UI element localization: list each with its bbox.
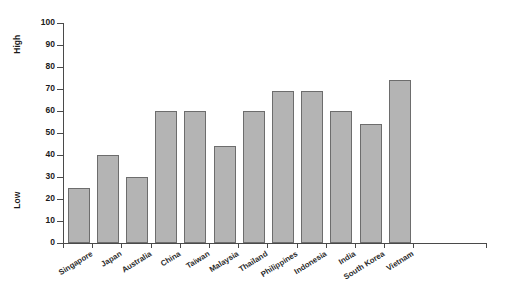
bar — [126, 177, 148, 243]
bar — [389, 80, 411, 243]
x-axis-label: China — [159, 250, 182, 268]
y-axis-tick — [57, 133, 63, 134]
x-axis-tick — [180, 243, 181, 248]
y-axis-tick-label: 10 — [33, 216, 55, 225]
y-axis-tick-label: 20 — [33, 194, 55, 203]
y-axis-tick-label: 70 — [33, 84, 55, 93]
x-axis-tick — [63, 243, 64, 248]
y-axis-tick — [57, 23, 63, 24]
bar — [272, 91, 294, 243]
x-axis-label: Taiwan — [185, 250, 211, 270]
x-axis-line — [63, 243, 487, 244]
bar — [68, 188, 90, 243]
y-axis-annotation-high: High — [13, 31, 22, 57]
x-axis-tick — [267, 243, 268, 248]
x-axis-label: India — [338, 250, 358, 266]
bar — [330, 111, 352, 243]
y-axis-tick-label: 0 — [33, 238, 55, 247]
x-axis-label: Vietnam — [386, 250, 416, 273]
y-axis-tick — [57, 155, 63, 156]
y-axis-tick-label: 60 — [33, 106, 55, 115]
x-axis-tick — [151, 243, 152, 248]
x-axis-tick — [238, 243, 239, 248]
x-axis-tick — [326, 243, 327, 248]
chart-page: High Low 0102030405060708090100 Singapor… — [0, 0, 518, 299]
x-axis-label: Singapore — [58, 250, 94, 277]
x-axis-tick — [297, 243, 298, 248]
y-axis-tick-label: 30 — [33, 172, 55, 181]
x-axis-label: Malaysia — [209, 250, 241, 274]
y-axis-tick — [57, 67, 63, 68]
x-axis-tick — [413, 243, 414, 248]
y-axis-tick — [57, 111, 63, 112]
y-axis-annotation-low: Low — [13, 187, 22, 213]
x-axis-tick — [92, 243, 93, 248]
x-axis-tick — [121, 243, 122, 248]
y-axis-tick-label: 50 — [33, 128, 55, 137]
y-axis-tick — [57, 221, 63, 222]
bar — [360, 124, 382, 243]
bar — [301, 91, 323, 243]
y-axis-tick-label: 80 — [33, 62, 55, 71]
x-axis-tick — [384, 243, 385, 248]
x-axis-tick — [209, 243, 210, 248]
y-axis-tick — [57, 199, 63, 200]
y-axis-tick-label: 90 — [33, 40, 55, 49]
bar — [97, 155, 119, 243]
y-axis-tick-label: 100 — [33, 18, 55, 27]
y-axis-tick — [57, 89, 63, 90]
y-axis-line — [63, 23, 64, 244]
x-axis-label: Australia — [120, 250, 152, 274]
bar — [243, 111, 265, 243]
y-axis-tick — [57, 45, 63, 46]
bar-chart: High Low 0102030405060708090100 Singapor… — [0, 0, 518, 299]
bar — [184, 111, 206, 243]
bar — [214, 146, 236, 243]
bar — [155, 111, 177, 243]
x-axis-tick — [355, 243, 356, 248]
y-axis-tick-label: 40 — [33, 150, 55, 159]
x-axis-end-tick — [486, 243, 487, 248]
y-axis-tick — [57, 177, 63, 178]
